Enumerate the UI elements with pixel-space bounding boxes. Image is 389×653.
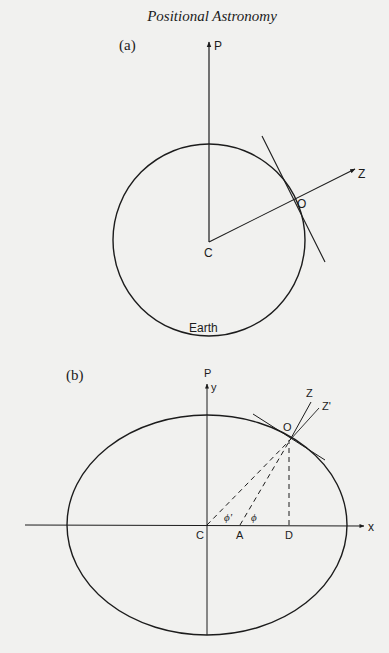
x-axis-arrow bbox=[25, 525, 364, 526]
label-phi: ϕ bbox=[251, 511, 257, 523]
label-z-b: Z bbox=[306, 387, 313, 399]
label-o-b: O bbox=[283, 421, 292, 433]
zenith-direction-arrow bbox=[209, 169, 355, 242]
figure-canvas: (a) P Z O C Earth (b) P y bbox=[0, 0, 389, 653]
label-y-axis: y bbox=[211, 381, 217, 393]
label-p-b: P bbox=[204, 367, 211, 379]
label-c-a: C bbox=[204, 246, 213, 260]
label-phi-prime: ϕ' bbox=[224, 511, 233, 523]
tangent-line-a bbox=[262, 136, 325, 262]
label-o-a: O bbox=[297, 197, 306, 211]
panel-label-b: (b) bbox=[66, 367, 84, 384]
label-earth: Earth bbox=[189, 321, 218, 335]
label-p-a: P bbox=[214, 39, 222, 53]
book-page: Positional Astronomy (a) P Z O C Earth bbox=[0, 0, 389, 653]
geocentric-radius-dashed bbox=[207, 440, 290, 525]
normal-line-dashed bbox=[240, 440, 290, 525]
label-d: D bbox=[285, 529, 293, 541]
label-c-b: C bbox=[196, 529, 204, 541]
label-z-prime: Z' bbox=[322, 400, 331, 412]
label-z-a: Z bbox=[358, 167, 365, 181]
figure-a: (a) P Z O C Earth bbox=[113, 37, 365, 336]
figure-b: (b) P y x Z Z' O ϕ' ϕ C A bbox=[25, 367, 374, 635]
panel-label-a: (a) bbox=[119, 37, 136, 54]
geodetic-zenith-line bbox=[290, 402, 311, 440]
label-a: A bbox=[236, 529, 244, 541]
label-x-axis: x bbox=[368, 520, 374, 534]
